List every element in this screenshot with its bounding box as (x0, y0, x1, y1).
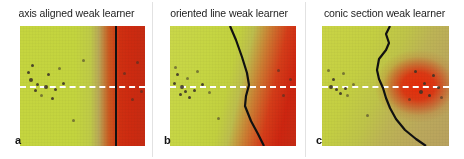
data-point (428, 94, 431, 97)
data-point (208, 91, 211, 94)
data-point (184, 90, 187, 93)
data-point (342, 72, 345, 75)
panel-axis-aligned: axis aligned weak learner (1, 0, 152, 159)
data-point (136, 61, 139, 64)
panel-oriented-line: oriented line weak learner (153, 0, 305, 159)
data-point (366, 114, 369, 117)
data-point (419, 90, 423, 94)
panel-letter-c: c (316, 134, 322, 146)
data-point (44, 85, 48, 89)
data-point (188, 96, 191, 99)
data-point (40, 94, 43, 97)
data-point (414, 70, 417, 73)
decision-boundary-b (170, 26, 296, 146)
data-point (327, 69, 330, 72)
data-point (193, 89, 196, 92)
data-point (174, 66, 177, 69)
data-point (329, 85, 333, 89)
data-point (27, 71, 30, 74)
data-point (29, 78, 33, 82)
data-point (432, 74, 435, 77)
panel-conic-section: conic section weak learner (306, 0, 463, 159)
figure-root: axis aligned weak learner (0, 0, 464, 159)
data-point (82, 59, 85, 62)
panel-title-b: oriented line weak learner (153, 7, 305, 19)
data-point (62, 82, 65, 85)
panel-title-a: axis aligned weak learner (1, 7, 152, 19)
data-point (131, 98, 134, 101)
data-point (217, 117, 220, 120)
data-point (437, 86, 440, 89)
data-point (196, 70, 199, 73)
panel-letter-a: a (15, 134, 21, 146)
data-point (339, 92, 342, 95)
data-point (72, 119, 75, 122)
data-point (423, 82, 426, 85)
data-point (36, 83, 39, 86)
data-point (140, 90, 143, 93)
data-point (352, 83, 355, 86)
data-point (47, 73, 50, 76)
data-point (58, 67, 61, 70)
data-point (332, 78, 335, 81)
data-point (34, 89, 37, 92)
data-point (179, 93, 182, 96)
data-point (440, 96, 443, 99)
data-point (289, 78, 292, 81)
panel-letter-b: b (164, 134, 171, 146)
data-point (51, 97, 54, 100)
decision-boundary-a (20, 26, 145, 146)
data-point (123, 72, 126, 75)
data-point (335, 88, 338, 91)
panel-title-c: conic section weak learner (306, 7, 463, 19)
data-point (408, 98, 411, 101)
decision-boundary-c (322, 26, 449, 146)
data-point (201, 83, 204, 86)
data-point (176, 73, 179, 76)
plot-area-b (170, 26, 296, 146)
plot-area-a (20, 26, 145, 146)
data-point (277, 69, 280, 72)
data-point (180, 85, 184, 89)
data-point (346, 94, 349, 97)
data-point (282, 94, 285, 97)
data-point (31, 64, 34, 67)
data-point (54, 88, 57, 91)
data-point (173, 82, 176, 85)
plot-area-c (322, 26, 449, 146)
data-point (186, 77, 189, 80)
data-point (344, 87, 347, 90)
